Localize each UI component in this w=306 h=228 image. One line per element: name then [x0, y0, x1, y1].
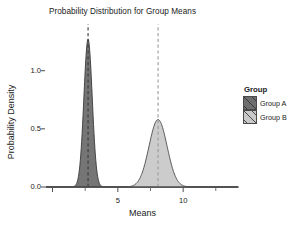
x-tick-label: 5	[103, 196, 133, 205]
chart-figure: Probability Distribution for Group Means…	[0, 0, 306, 228]
legend-swatch-group-a	[243, 96, 257, 110]
legend-title: Group	[244, 85, 305, 94]
y-tick-label: 0.5	[15, 124, 41, 134]
x-axis-label: Means	[45, 208, 240, 218]
y-tick-label: 1.0	[15, 66, 41, 76]
y-tick-label-text: 0.5	[15, 124, 41, 133]
chart-title: Probability Distribution for Group Means	[0, 7, 245, 16]
legend-item-group-a[interactable]: Group A	[243, 96, 305, 110]
legend-label-group-a: Group A	[260, 99, 286, 108]
y-tick-label: 0.0	[15, 182, 41, 192]
y-tick-label-text: 1.0	[15, 66, 41, 75]
legend: Group Group A Group B	[243, 85, 305, 124]
y-axis-label: Probability Density	[6, 62, 16, 182]
legend-item-group-b[interactable]: Group B	[243, 110, 305, 124]
legend-label-group-b: Group B	[260, 113, 287, 122]
legend-swatch-group-b	[243, 110, 257, 124]
density-curve-group-a	[46, 39, 238, 187]
y-tick-label-text: 0.0	[15, 182, 41, 191]
x-tick-label: 10	[168, 196, 198, 205]
density-curve-group-b	[46, 120, 238, 187]
